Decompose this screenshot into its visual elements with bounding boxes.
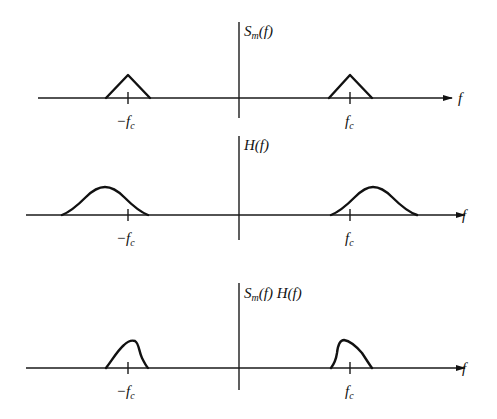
x-label: f [462,207,468,223]
panel-message-spectrum: Sm(f) f −fc fc [38,22,464,131]
panel-filtered-spectrum: Sm(f) H(f) f −fc fc [26,283,468,401]
left-bump [62,187,148,215]
right-product [331,340,372,368]
tick-label-neg-fc: −fc [116,113,135,131]
left-product [106,341,148,368]
tick-label-pos-fc: fc [345,230,354,248]
x-label: f [458,90,464,106]
x-label: f [462,360,468,376]
tick-label-pos-fc: fc [345,383,354,401]
tick-label-pos-fc: fc [345,113,354,131]
tick-label-neg-fc: −fc [116,383,135,401]
right-bump [331,187,417,215]
panel-filter-response: H(f) f −fc fc [26,136,468,248]
tick-label-neg-fc: −fc [116,230,135,248]
y-label: H(f) [243,137,269,154]
figure-canvas: Sm(f) f −fc fc H(f) f −fc fc Sm(f) H(f) … [0,0,497,419]
y-label: Sm(f) [244,23,273,41]
y-label: Sm(f) H(f) [244,285,302,303]
